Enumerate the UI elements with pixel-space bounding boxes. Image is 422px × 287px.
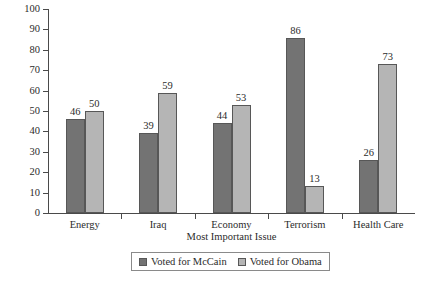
bar-obama: 59 <box>158 93 177 213</box>
bar-chart: Percent Voting for Candidates 0102030405… <box>0 0 422 287</box>
chart-legend: Voted for McCainVoted for Obama <box>131 252 330 271</box>
bar-obama: 73 <box>378 64 397 213</box>
legend-entry: Voted for Obama <box>238 255 322 268</box>
bar-value-label: 86 <box>290 25 301 37</box>
y-axis-tick-label: 40 <box>10 124 40 137</box>
y-axis-tick-mark <box>43 131 49 132</box>
bar-value-label: 59 <box>162 80 173 92</box>
y-axis-tick-label: 90 <box>10 22 40 35</box>
y-axis-tick-mark <box>43 9 49 10</box>
y-axis-tick-label: 100 <box>10 2 40 15</box>
legend-label: Voted for McCain <box>151 255 227 268</box>
y-axis-tick-label: 20 <box>10 165 40 178</box>
bar-mccain: 44 <box>213 123 232 213</box>
y-axis-tick-mark <box>43 70 49 71</box>
y-axis-tick-label: 80 <box>10 43 40 56</box>
legend-entry: Voted for McCain <box>139 255 227 268</box>
y-axis-tick-mark <box>43 111 49 112</box>
y-axis-tick-label: 10 <box>10 186 40 199</box>
y-axis-tick-label: 70 <box>10 63 40 76</box>
bar-value-label: 26 <box>364 147 375 159</box>
y-axis-tick-mark <box>43 193 49 194</box>
legend-label: Voted for Obama <box>250 255 322 268</box>
bar-mccain: 39 <box>139 133 158 213</box>
bar-value-label: 53 <box>236 92 247 104</box>
bar-mccain: 26 <box>359 160 378 213</box>
y-axis-tick-mark <box>43 29 49 30</box>
y-axis-tick-label: 50 <box>10 104 40 117</box>
bar-value-label: 46 <box>70 106 81 118</box>
bar-obama: 13 <box>305 186 324 213</box>
y-axis-tick-mark <box>43 213 49 214</box>
legend-swatch-mccain <box>139 258 147 266</box>
plot-area: 0102030405060708090100 46503959445386132… <box>48 9 415 213</box>
y-axis-tick-label: 60 <box>10 84 40 97</box>
y-axis-tick-mark <box>43 172 49 173</box>
bar-value-label: 50 <box>89 98 100 110</box>
y-axis-tick-mark <box>43 91 49 92</box>
legend-swatch-obama <box>238 258 246 266</box>
bar-value-label: 44 <box>217 110 228 122</box>
x-axis-title: Most Important Issue <box>48 230 415 244</box>
y-axis-tick-mark <box>43 152 49 153</box>
x-axis-line <box>48 213 415 214</box>
bar-obama: 53 <box>232 105 251 213</box>
bar-value-label: 13 <box>309 173 320 185</box>
bar-value-label: 73 <box>383 51 394 63</box>
y-axis-tick-label: 0 <box>10 206 40 219</box>
bar-mccain: 46 <box>66 119 85 213</box>
y-axis-tick-mark <box>43 50 49 51</box>
bar-mccain: 86 <box>286 38 305 213</box>
bar-obama: 50 <box>85 111 104 213</box>
bar-value-label: 39 <box>143 120 154 132</box>
y-axis-tick-label: 30 <box>10 145 40 158</box>
